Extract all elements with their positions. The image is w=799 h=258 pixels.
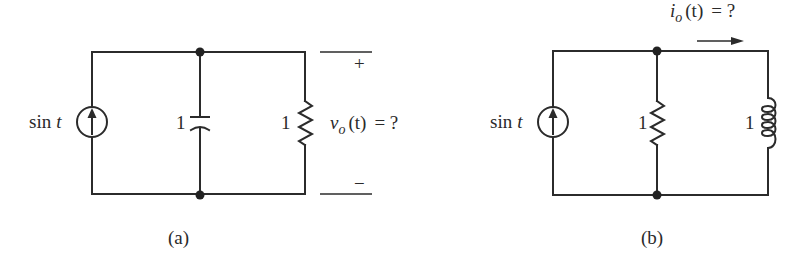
node-a-top <box>196 48 205 57</box>
node-b-bottom <box>653 191 662 200</box>
current-source-b-icon <box>538 107 568 137</box>
caption-a: (a) <box>168 227 189 249</box>
resistor-a-icon <box>299 101 312 145</box>
output-a-voltage-label: vo(t)= ? <box>330 112 398 137</box>
circuit-b: sint 1 1 io(t)= ? (b) <box>490 0 776 249</box>
capacitor-a-value: 1 <box>176 112 186 133</box>
node-b-top <box>653 47 662 56</box>
circuit-diagram: sint 1 1 + − vo(t)= ? (a) s <box>0 0 799 258</box>
resistor-a-value: 1 <box>281 112 291 133</box>
output-a-plus: + <box>354 53 365 74</box>
caption-b: (b) <box>641 227 663 249</box>
current-arrow-icon <box>697 37 744 45</box>
inductor-b-value: 1 <box>745 112 755 133</box>
inductor-b-icon <box>762 98 776 148</box>
circuit-a: sint 1 1 + − vo(t)= ? (a) <box>29 48 398 250</box>
source-b-label: sint <box>490 111 523 132</box>
node-a-bottom <box>196 191 205 200</box>
output-a-minus: − <box>354 173 365 194</box>
output-b-current-label: io(t)= ? <box>670 0 735 25</box>
resistor-b-value: 1 <box>638 112 648 133</box>
current-source-a-icon <box>77 107 107 137</box>
resistor-b-icon <box>651 101 664 145</box>
source-a-label: sint <box>29 111 62 132</box>
